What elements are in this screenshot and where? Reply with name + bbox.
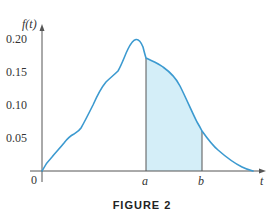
y-tick-0.15: 0.15 bbox=[6, 65, 27, 79]
figure-caption: FIGURE 2 bbox=[113, 199, 172, 211]
y-tick-0.10: 0.10 bbox=[6, 98, 27, 112]
y-axis-label: f(t) bbox=[22, 17, 37, 31]
origin-label: 0 bbox=[31, 173, 37, 187]
x-tick-b: b bbox=[198, 174, 204, 188]
y-tick-0.05: 0.05 bbox=[6, 131, 27, 145]
x-tick-a: a bbox=[142, 174, 148, 188]
y-axis-arrow-icon bbox=[40, 24, 45, 31]
x-axis-arrow-icon bbox=[259, 169, 266, 174]
y-tick-0.20: 0.20 bbox=[6, 32, 27, 46]
figure-canvas: f(t) 0.20 0.15 0.10 0.05 0 a b t FIGURE … bbox=[0, 0, 279, 221]
x-axis-label: t bbox=[260, 174, 264, 188]
